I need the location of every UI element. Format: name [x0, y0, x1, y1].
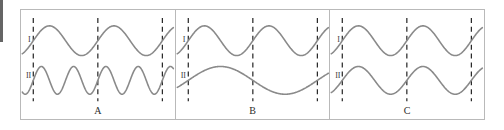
trace-label-i: I — [183, 36, 185, 44]
waveform-figure: IIIAIIIBIIIC — [0, 0, 504, 130]
panel-a: IIIA — [21, 10, 175, 119]
figure-frame: IIIAIIIBIIIC — [20, 9, 485, 120]
trace-label-ii: II — [26, 72, 31, 80]
panel-plot-c — [330, 10, 484, 119]
panel-c: IIIC — [329, 10, 484, 119]
trace-label-i: I — [28, 36, 30, 44]
panel-row: IIIAIIIBIIIC — [21, 10, 484, 119]
trace-label-ii: II — [335, 72, 340, 80]
panel-plot-a — [21, 10, 175, 119]
trace-label-i: I — [337, 36, 339, 44]
panel-caption-a: A — [21, 106, 175, 116]
page-edge-artifact — [0, 0, 3, 42]
trace-label-ii: II — [181, 72, 186, 80]
panel-plot-b — [176, 10, 330, 119]
panel-caption-c: C — [330, 106, 484, 116]
panel-caption-b: B — [176, 106, 330, 116]
panel-b: IIIB — [175, 10, 330, 119]
